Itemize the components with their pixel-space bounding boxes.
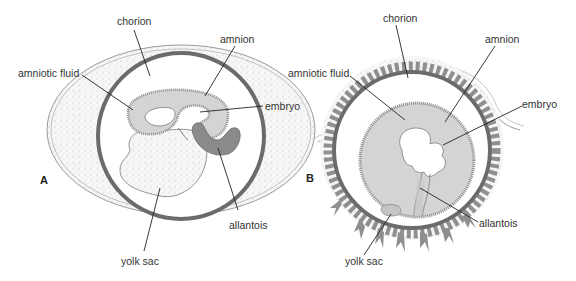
embryonic-membranes-diagram: chorion amnion amniotic fluid embryo all… bbox=[0, 0, 576, 281]
label-amnion-b: amnion bbox=[485, 33, 520, 45]
label-allantois-b: allantois bbox=[479, 217, 518, 229]
label-chorion-b: chorion bbox=[383, 12, 418, 24]
label-chorion-a: chorion bbox=[117, 15, 152, 27]
label-allantois-a: allantois bbox=[229, 219, 268, 231]
label-yolk-sac-a: yolk sac bbox=[121, 255, 159, 267]
panel-letter-a: A bbox=[40, 174, 48, 186]
panel-letter-b: B bbox=[306, 172, 314, 184]
panel-b: chorion amnion amniotic fluid embryo all… bbox=[288, 12, 557, 267]
label-amnion-a: amnion bbox=[220, 33, 255, 45]
label-yolk-sac-b: yolk sac bbox=[345, 255, 383, 267]
label-amniotic-fluid-a: amniotic fluid bbox=[18, 67, 79, 79]
label-embryo-b: embryo bbox=[522, 98, 557, 110]
label-embryo-a: embryo bbox=[265, 100, 300, 112]
label-amniotic-fluid-b: amniotic fluid bbox=[288, 67, 349, 79]
panel-a: chorion amnion amniotic fluid embryo all… bbox=[18, 15, 315, 267]
